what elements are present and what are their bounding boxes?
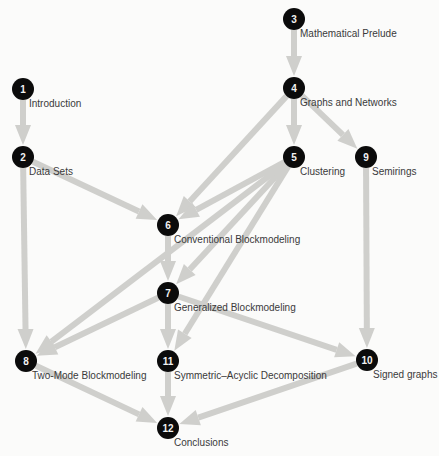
arrowhead-icon: [286, 56, 302, 76]
node-label-7: Generalized Blockmodeling: [174, 302, 296, 313]
node-12: 12: [157, 417, 179, 439]
node-label-12: Conclusions: [174, 437, 228, 448]
arrowhead-icon: [15, 125, 31, 145]
node-label-8: Two-Mode Blockmodeling: [32, 370, 147, 381]
node-label-9: Semirings: [372, 166, 416, 177]
node-label-2: Data Sets: [29, 166, 73, 177]
node-11: 11: [157, 350, 179, 372]
node-9: 9: [355, 146, 377, 168]
arrowhead-icon: [136, 407, 158, 423]
node-1: 1: [12, 78, 34, 100]
node-4: 4: [283, 77, 305, 99]
edges-layer: [0, 0, 439, 456]
node-3: 3: [283, 8, 305, 30]
node-8: 8: [15, 350, 37, 372]
node-label-11: Symmetric–Acyclic Decomposition: [174, 370, 327, 381]
node-label-5: Clustering: [300, 166, 345, 177]
node-7: 7: [157, 282, 179, 304]
node-label-1: Introduction: [29, 98, 81, 109]
arrowhead-icon: [286, 125, 302, 145]
node-label-4: Graphs and Networks: [300, 97, 397, 108]
node-label-10: Signed graphs: [373, 369, 438, 380]
arrowhead-icon: [174, 330, 191, 351]
node-5: 5: [283, 146, 305, 168]
arrowhead-icon: [160, 261, 176, 281]
arrowhead-icon: [179, 410, 201, 425]
arrowhead-icon: [160, 396, 176, 416]
edge-5-7: [190, 165, 287, 269]
node-6: 6: [157, 214, 179, 236]
node-10: 10: [356, 349, 378, 371]
edge-2-8: [23, 168, 25, 329]
arrowhead-icon: [18, 329, 34, 349]
node-label-3: Mathematical Prelude: [300, 28, 397, 39]
arrowhead-icon: [359, 328, 375, 348]
arrowhead-icon: [334, 342, 356, 357]
node-2: 2: [12, 146, 34, 168]
arrowhead-icon: [136, 204, 158, 220]
edge-7-8: [55, 298, 158, 347]
node-label-6: Conventional Blockmodeling: [174, 234, 300, 245]
arrowhead-icon: [160, 329, 176, 349]
edge-9-10: [366, 168, 367, 328]
